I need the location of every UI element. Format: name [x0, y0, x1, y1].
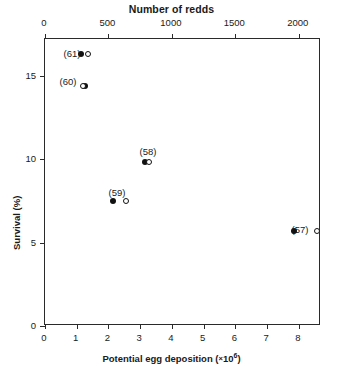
- x-axis-top-tick: [299, 34, 300, 39]
- y-axis-tick: [40, 326, 45, 327]
- x-axis-bottom-tick: [267, 324, 268, 329]
- x-axis-bottom-tick: [45, 324, 46, 329]
- x-axis-bottom-tick: [204, 324, 205, 329]
- data-point-open: [146, 159, 152, 165]
- y-axis-tick-label: 5: [16, 236, 36, 247]
- data-point-label: (61): [64, 48, 81, 59]
- data-point-label: (59): [109, 187, 126, 198]
- data-point-open: [85, 51, 91, 57]
- x-axis-top-tick-label: 1500: [224, 17, 245, 28]
- x-axis-top-tick: [45, 34, 46, 39]
- x-axis-bottom-tick-label: 2: [105, 332, 110, 343]
- x-axis-bottom-tick-label: 3: [137, 332, 142, 343]
- y-axis-tick-label: 0: [16, 320, 36, 331]
- x-axis-bottom-tick-label: 6: [232, 332, 237, 343]
- x-axis-bottom-tick: [235, 324, 236, 329]
- x-axis-top-tick: [108, 34, 109, 39]
- y-axis-tick-label: 10: [16, 153, 36, 164]
- x-axis-bottom-tick: [140, 324, 141, 329]
- y-axis-tick: [40, 159, 45, 160]
- x-axis-bottom-tick-label: 1: [73, 332, 78, 343]
- data-point-filled: [110, 198, 116, 204]
- data-point-label: (60): [60, 76, 77, 87]
- chart-top-axis-title: Number of redds: [0, 3, 343, 15]
- x-axis-top-tick-label: 500: [100, 17, 116, 28]
- y-axis-tick: [40, 76, 45, 77]
- x-axis-title-close: ): [237, 353, 240, 364]
- data-point-open: [314, 228, 320, 234]
- x-axis-top-tick: [172, 34, 173, 39]
- x-axis-bottom-tick-label: 5: [200, 332, 205, 343]
- x-axis-title-text: Potential egg deposition (: [102, 353, 218, 364]
- x-axis-bottom-tick-label: 8: [295, 332, 300, 343]
- x-axis-bottom-tick: [108, 324, 109, 329]
- x-axis-bottom-tick: [77, 324, 78, 329]
- x-axis-title: Potential egg deposition (×106): [0, 352, 343, 364]
- x-axis-top-tick-label: 0: [41, 17, 46, 28]
- x-axis-bottom-tick: [172, 324, 173, 329]
- x-axis-top-tick: [235, 34, 236, 39]
- x-axis-bottom-tick-label: 0: [41, 332, 46, 343]
- data-point-open: [80, 83, 86, 89]
- data-point-label: (58): [140, 146, 157, 157]
- scatter-plot-figure: Number of redds Survival (%) Potential e…: [0, 0, 343, 376]
- y-axis-tick-label: 15: [16, 69, 36, 80]
- x-axis-bottom-tick-label: 4: [168, 332, 173, 343]
- x-axis-top-tick-label: 1000: [160, 17, 181, 28]
- x-axis-top-tick-label: 2000: [287, 17, 308, 28]
- y-axis-tick: [40, 243, 45, 244]
- data-point-label: (57): [292, 224, 309, 235]
- plot-area: [44, 38, 320, 325]
- x-axis-bottom-tick-label: 7: [263, 332, 268, 343]
- x-axis-title-base: 10: [223, 353, 234, 364]
- data-point-open: [123, 198, 129, 204]
- x-axis-bottom-tick: [299, 324, 300, 329]
